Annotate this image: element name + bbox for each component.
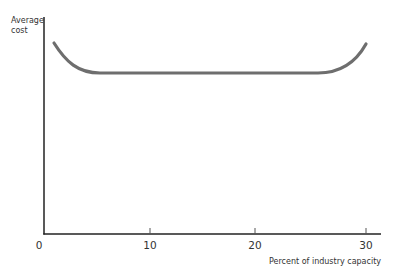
x-tick-label-10: 10 xyxy=(143,239,156,251)
y-axis-title-line2: cost xyxy=(11,26,28,35)
average-cost-curve xyxy=(54,43,366,73)
x-tick-label-0: 0 xyxy=(36,239,43,251)
y-axis-title-line1: Average xyxy=(11,16,44,25)
x-tick-label-20: 20 xyxy=(248,239,261,251)
x-tick-label-30: 30 xyxy=(359,239,372,251)
chart: 0 10 20 30 Percent of industry capacity … xyxy=(0,0,393,278)
x-axis-title: Percent of industry capacity xyxy=(269,257,381,266)
